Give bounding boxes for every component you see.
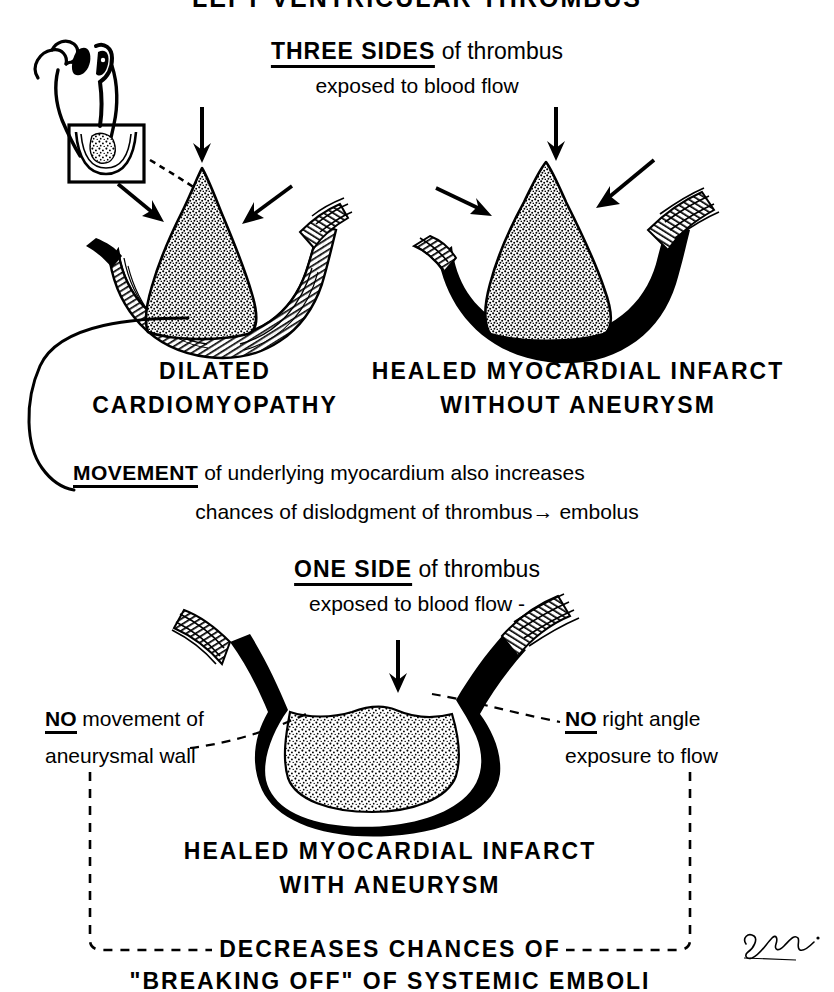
movement-note-emphasis: MOVEMENT bbox=[73, 461, 198, 488]
movement-note-rest: of underlying myocardium also increases bbox=[198, 461, 584, 484]
label-healed-mi-with-aneurysm-line1: HEALED MYOCARDIAL INFARCT bbox=[184, 838, 596, 865]
conclusion-line2: "BREAKING OFF" OF SYSTEMIC EMBOLI bbox=[130, 968, 651, 992]
no-movement-note-line2: aneurysmal wall bbox=[45, 744, 196, 768]
bottom-subheading: exposed to blood flow - bbox=[309, 592, 525, 616]
diagonal-arrow-icon-right bbox=[242, 186, 292, 224]
no-right-angle-note-line1: NO right angle bbox=[565, 707, 700, 731]
diagonal-arrow-icon-right bbox=[596, 160, 654, 208]
label-healed-mi-without-aneurysm-line2: WITHOUT ANEURYSM bbox=[440, 392, 716, 419]
down-arrow-icon bbox=[389, 640, 407, 693]
no-movement-emphasis: NO bbox=[45, 707, 77, 734]
no-right-angle-rest: right angle bbox=[597, 707, 701, 730]
no-right-angle-note-line2: exposure to flow bbox=[565, 744, 718, 768]
conclusion-line1: DECREASES CHANCES OF bbox=[219, 936, 561, 963]
no-right-angle-emphasis: NO bbox=[565, 707, 597, 734]
bottom-heading-emphasis: ONE SIDE bbox=[294, 556, 412, 586]
down-arrow-icon bbox=[193, 107, 211, 163]
diagonal-arrow-icon-left bbox=[436, 188, 492, 216]
down-arrow-icon bbox=[547, 107, 565, 161]
movement-note-line2: chances of dislodgment of thrombus→ embo… bbox=[195, 500, 639, 524]
label-dilated-cardiomyopathy-line1: DILATED bbox=[159, 358, 271, 385]
diagram-healed-mi-without-aneurysm bbox=[414, 107, 719, 363]
movement-note-line1: MOVEMENT of underlying myocardium also i… bbox=[73, 461, 585, 485]
top-heading-rest: of thrombus bbox=[435, 38, 563, 64]
top-subheading: exposed to blood flow bbox=[315, 74, 518, 98]
top-heading: THREE SIDES of thrombus bbox=[271, 38, 563, 65]
top-heading-emphasis: THREE SIDES bbox=[271, 38, 435, 68]
page-title: LEFT VENTRICULAR THROMBUS bbox=[192, 0, 642, 13]
artist-signature bbox=[744, 935, 820, 960]
bottom-heading: ONE SIDE of thrombus bbox=[294, 556, 540, 583]
label-dilated-cardiomyopathy-line2: CARDIOMYOPATHY bbox=[92, 392, 338, 419]
bottom-heading-rest: of thrombus bbox=[412, 556, 540, 582]
diagram-healed-mi-with-aneurysm bbox=[172, 594, 579, 837]
no-movement-note-line1: NO movement of bbox=[45, 707, 204, 731]
label-healed-mi-without-aneurysm-line1: HEALED MYOCARDIAL INFARCT bbox=[372, 358, 784, 385]
no-movement-rest: movement of bbox=[77, 707, 204, 730]
label-healed-mi-with-aneurysm-line2: WITH ANEURYSM bbox=[279, 872, 500, 899]
heart-outline-inset bbox=[35, 41, 206, 196]
diagonal-arrow-icon-left bbox=[118, 184, 164, 222]
